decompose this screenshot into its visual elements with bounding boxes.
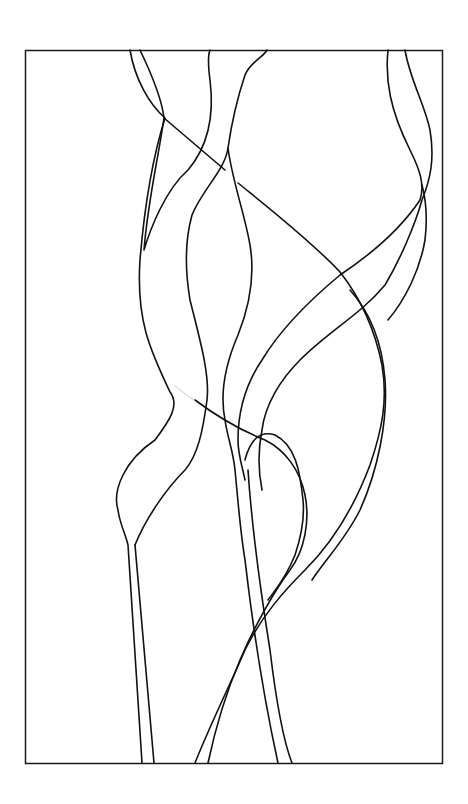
- artwork-frame: [26, 51, 443, 764]
- stroke-diagonal-mid: [195, 400, 307, 763]
- stroke-center-right: [245, 434, 303, 763]
- ribbon-strokes: [117, 50, 432, 763]
- stroke-left-leg-inner: [135, 50, 267, 545]
- stroke-right-inner: [259, 50, 432, 490]
- stroke-center-left: [223, 148, 278, 763]
- stroke-diagonal-faint: [175, 386, 196, 402]
- line-drawing-artwork: [0, 0, 468, 804]
- stroke-diagonal-long: [164, 118, 384, 763]
- stroke-left-leg-right: [135, 545, 154, 763]
- stroke-far-right-loop: [312, 290, 386, 580]
